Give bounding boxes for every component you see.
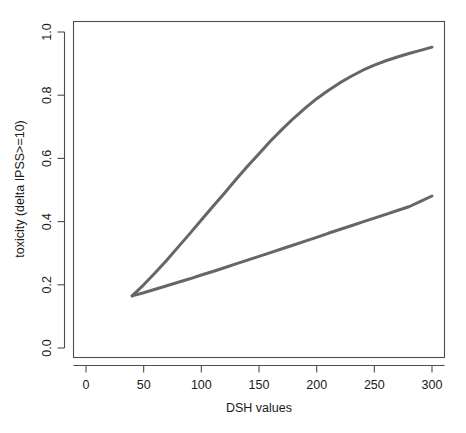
y-tick-label: 1.0: [40, 23, 54, 40]
y-tick-group: 0.00.20.40.60.81.0: [40, 23, 64, 356]
x-tick-label: 50: [137, 378, 151, 392]
y-axis-label: toxicity (delta IPSS>=10): [13, 120, 27, 258]
chart-figure: 050100150200250300 0.00.20.40.60.81.0 DS…: [0, 0, 466, 433]
x-tick-label: 250: [364, 378, 385, 392]
x-tick-label: 0: [83, 378, 90, 392]
plot-canvas: 050100150200250300 0.00.20.40.60.81.0 DS…: [0, 0, 466, 433]
x-tick-label: 300: [422, 378, 443, 392]
series-group: [132, 47, 432, 296]
x-tick-label: 150: [249, 378, 270, 392]
y-tick-label: 0.0: [40, 339, 54, 356]
series-upper-curve: [132, 47, 432, 296]
x-tick-label: 100: [191, 378, 212, 392]
plot-frame: [74, 22, 445, 358]
y-tick-label: 0.6: [40, 150, 54, 167]
x-axis-label: DSH values: [226, 401, 292, 415]
x-tick-group: 050100150200250300: [83, 366, 443, 393]
y-tick-label: 0.8: [40, 86, 54, 103]
x-tick-label: 200: [306, 378, 327, 392]
y-tick-label: 0.2: [40, 276, 54, 293]
y-tick-label: 0.4: [40, 213, 54, 230]
